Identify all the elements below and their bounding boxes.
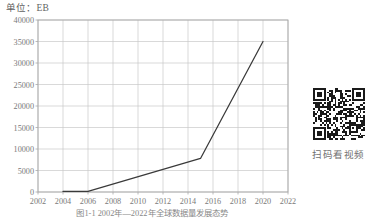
svg-text:35000: 35000	[14, 38, 34, 47]
svg-text:2016: 2016	[205, 197, 221, 206]
svg-text:2014: 2014	[180, 197, 196, 206]
svg-text:2010: 2010	[130, 197, 146, 206]
figure-container: 单位：EB 0500010000150002000025000300003500…	[0, 0, 300, 220]
qr-caption: 扫码看视频	[300, 149, 377, 161]
svg-text:2020: 2020	[255, 197, 271, 206]
svg-text:2006: 2006	[80, 197, 96, 206]
qr-block: 扫码看视频	[300, 88, 377, 161]
qr-code-icon[interactable]	[313, 88, 365, 140]
svg-text:0: 0	[30, 188, 34, 197]
svg-text:25000: 25000	[14, 81, 34, 90]
svg-text:2022: 2022	[280, 197, 296, 206]
svg-text:2012: 2012	[155, 197, 171, 206]
y-axis-tick-labels: 0500010000150002000025000300003500040000	[14, 16, 34, 197]
svg-text:15000: 15000	[14, 124, 34, 133]
svg-text:30000: 30000	[14, 59, 34, 68]
svg-text:2004: 2004	[55, 197, 71, 206]
x-axis-tick-labels: 2002200420062008201020122014201620182020…	[30, 197, 296, 206]
svg-text:2018: 2018	[230, 197, 246, 206]
figure-caption: 图1-1 2002年—2022年全球数据量发展态势	[22, 209, 282, 219]
svg-text:40000: 40000	[14, 16, 34, 25]
svg-text:10000: 10000	[14, 145, 34, 154]
svg-text:2002: 2002	[30, 197, 46, 206]
plot-frame	[36, 20, 289, 195]
svg-text:2008: 2008	[105, 197, 121, 206]
svg-text:5000: 5000	[18, 167, 34, 176]
grid-lines	[38, 20, 288, 192]
svg-text:20000: 20000	[14, 102, 34, 111]
unit-label: 单位：EB	[6, 2, 49, 14]
line-chart: 0500010000150002000025000300003500040000…	[0, 14, 300, 206]
